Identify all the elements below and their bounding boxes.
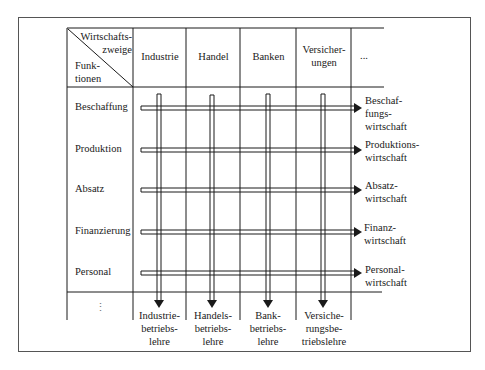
corner-top-label-2: zweige xyxy=(70,44,132,57)
bottom-result-versicherung-3: triebslehre xyxy=(295,336,353,349)
corner-bottom-label-1: Funk- xyxy=(75,60,100,73)
bottom-result-bank-1: Bank- xyxy=(240,310,296,323)
row-result-beschaffung-2: fungs- xyxy=(365,108,392,121)
column-header-versicherungen-2: ungen xyxy=(297,57,351,70)
bottom-result-industrie-2: betriebs- xyxy=(133,323,186,336)
column-header-handel: Handel xyxy=(187,51,240,64)
column-header-industrie: Industrie xyxy=(134,51,186,64)
bottom-result-industrie-1: Industrie- xyxy=(133,310,186,323)
row-result-absatz-2: wirtschaft xyxy=(365,193,407,206)
row-label-beschaffung: Beschaffung xyxy=(75,101,128,114)
bottom-result-bank-3: lehre xyxy=(240,336,296,349)
column-header-versicherungen-1: Versicher- xyxy=(297,44,351,57)
corner-top-label-1: Wirtschafts- xyxy=(70,31,132,44)
row-result-finanzierung-2: wirtschaft xyxy=(364,235,406,248)
row-label-absatz: Absatz xyxy=(75,183,104,196)
bottom-result-bank-2: betriebs- xyxy=(240,323,296,336)
corner-bottom-label-2: tionen xyxy=(75,73,101,86)
row-result-beschaffung-1: Beschaf- xyxy=(365,95,402,108)
row-label-finanzierung: Finanzierung xyxy=(75,225,130,238)
bottom-result-industrie-3: lehre xyxy=(133,336,186,349)
column-header-banken: Banken xyxy=(241,51,296,64)
row-result-absatz-1: Absatz- xyxy=(365,180,398,193)
row-label-produktion: Produktion xyxy=(75,143,122,156)
bottom-row-ellipsis: ⋮ xyxy=(67,302,133,315)
row-result-finanzierung-1: Finanz- xyxy=(364,222,396,235)
row-result-personal-2: wirtschaft xyxy=(365,277,407,290)
bottom-result-handel-2: betriebs- xyxy=(186,323,240,336)
row-result-personal-1: Personal- xyxy=(365,264,405,277)
bottom-result-versicherung-2: rungsbe- xyxy=(295,323,353,336)
row-result-beschaffung-3: wirtschaft xyxy=(365,121,407,134)
row-result-produktion-2: wirtschaft xyxy=(365,152,407,165)
bottom-result-versicherung-1: Versiche- xyxy=(295,310,353,323)
bottom-result-handel-1: Handels- xyxy=(186,310,240,323)
column-header-more: ... xyxy=(360,50,368,63)
row-label-personal: Personal xyxy=(75,266,111,279)
row-result-produktion-1: Produktions- xyxy=(365,139,419,152)
bottom-result-handel-3: lehre xyxy=(186,336,240,349)
